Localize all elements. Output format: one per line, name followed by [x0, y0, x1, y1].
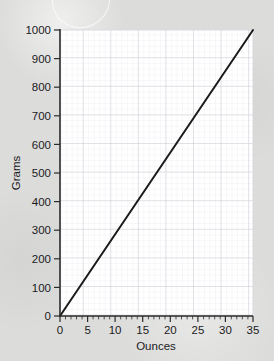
y-axis-title: Grams: [10, 156, 22, 191]
y-axis-ticks: [54, 30, 60, 316]
xtick-label: 20: [164, 324, 177, 336]
ytick-label: 1000: [25, 24, 51, 36]
xtick-label: 0: [57, 324, 63, 336]
x-axis-tick-labels: 0 5 10 15 20 25 30 35: [57, 324, 260, 336]
ytick-label: 800: [32, 81, 51, 93]
ytick-label: 600: [32, 139, 51, 151]
ytick-label: 0: [45, 310, 51, 322]
xtick-label: 30: [219, 324, 232, 336]
ytick-label: 900: [32, 53, 51, 65]
chart-figure: 0 100 200 300 400 500 600 700 800 900 10…: [0, 0, 274, 361]
y-axis-tick-labels: 0 100 200 300 400 500 600 700 800 900 10…: [25, 24, 51, 322]
ytick-label: 400: [32, 196, 51, 208]
xtick-label: 15: [136, 324, 149, 336]
xtick-label: 35: [247, 324, 260, 336]
xtick-label: 10: [109, 324, 122, 336]
ytick-label: 100: [32, 282, 51, 294]
xtick-label: 5: [84, 324, 90, 336]
ytick-label: 500: [32, 167, 51, 179]
ytick-label: 700: [32, 110, 51, 122]
xtick-label: 25: [192, 324, 205, 336]
conversion-line-chart: 0 100 200 300 400 500 600 700 800 900 10…: [0, 0, 274, 361]
ytick-label: 200: [32, 253, 51, 265]
x-axis-title: Ounces: [136, 340, 176, 352]
ytick-label: 300: [32, 224, 51, 236]
x-axis-ticks: [60, 316, 253, 322]
